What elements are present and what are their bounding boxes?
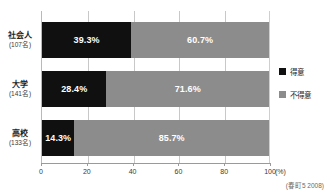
category-label-1: 社会人(107名) — [0, 31, 40, 49]
x-axis-tick-label: 0 — [39, 168, 43, 175]
cropped-title-strip — [0, 0, 330, 4]
x-axis-tick-label: 40 — [129, 168, 137, 175]
legend-label: 得意 — [290, 66, 304, 77]
bar-segment: 71.6% — [106, 71, 269, 107]
x-axis-tick — [41, 163, 42, 166]
x-axis-tick — [178, 163, 179, 166]
x-axis-tick — [270, 163, 271, 166]
bar-value-label: 85.7% — [159, 133, 185, 143]
bar-segment: 39.3% — [42, 22, 131, 58]
bar-value-label: 60.7% — [187, 35, 213, 45]
bar-segment: 28.4% — [42, 71, 106, 107]
category-label-2: 大学(141名) — [0, 80, 40, 98]
x-axis-unit-label: (%) — [275, 168, 286, 175]
bar-segment: 60.7% — [131, 22, 269, 58]
x-axis-tick — [133, 163, 134, 166]
x-axis-tick-label: 60 — [174, 168, 182, 175]
legend-item-2[interactable]: 不得意 — [279, 89, 311, 100]
bar-value-label: 39.3% — [74, 35, 100, 45]
category-name: 高校 — [0, 129, 40, 138]
category-label-3: 高校(133名) — [0, 129, 40, 147]
x-axis-tick-label: 20 — [83, 168, 91, 175]
bar-segment: 85.7% — [74, 120, 269, 156]
bar-segment: 14.3% — [42, 120, 74, 156]
plot-area: 39.3%60.7%28.4%71.6%14.3%85.7% — [41, 11, 270, 163]
legend-swatch-icon — [279, 68, 286, 75]
x-axis-tick-label: 80 — [220, 168, 228, 175]
x-axis-tick — [87, 163, 88, 166]
category-count: (107名) — [0, 41, 40, 48]
legend-label: 不得意 — [290, 89, 311, 100]
category-count: (133名) — [0, 139, 40, 146]
category-name: 社会人 — [0, 31, 40, 40]
category-name: 大学 — [0, 80, 40, 89]
source-note: (春町5 2008) — [286, 180, 324, 190]
x-axis-tick — [224, 163, 225, 166]
bars-layer: 39.3%60.7%28.4%71.6%14.3%85.7% — [42, 11, 269, 163]
bar-value-label: 28.4% — [61, 84, 87, 94]
legend-item-1[interactable]: 得意 — [279, 66, 311, 77]
bar-row: 28.4%71.6% — [42, 71, 269, 107]
category-count: (141名) — [0, 90, 40, 97]
stacked-bar-chart: 39.3%60.7%28.4%71.6%14.3%85.7% 020406080… — [0, 0, 330, 194]
bar-value-label: 14.3% — [45, 133, 71, 143]
bar-value-label: 71.6% — [175, 84, 201, 94]
legend-swatch-icon — [279, 91, 286, 98]
bar-row: 14.3%85.7% — [42, 120, 269, 156]
legend: 得意不得意 — [279, 66, 311, 112]
bar-row: 39.3%60.7% — [42, 22, 269, 58]
x-axis — [41, 163, 270, 164]
